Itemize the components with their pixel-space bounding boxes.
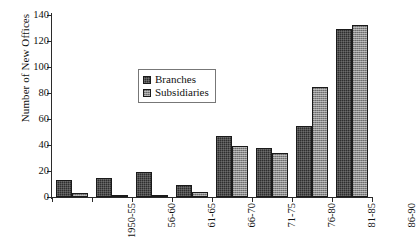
y-tick-label: 140 [33,8,49,21]
plot-area [52,15,372,197]
bar-subsidiaries-1950-55 [72,193,88,197]
bar-group [332,15,372,197]
bar-group [252,15,292,197]
x-tick-mark [132,197,133,202]
x-tick-label: 56-60 [166,203,178,250]
y-tick-label: 40 [39,138,50,151]
x-tick-label: 66-70 [246,203,258,250]
legend-item: Branches [143,73,209,86]
chart-legend: Branches Subsidiaries [138,69,216,103]
bar-branches-61-65 [136,172,152,197]
x-tick-mark [252,197,253,202]
x-tick-label: 81-85 [366,203,378,250]
legend-swatch-branches [143,76,151,84]
x-tick-label: 1950-55 [126,203,138,250]
bar-branches-66-70 [176,185,192,197]
legend-label-subsidiaries: Subsidiaries [155,86,209,99]
y-axis-title: Number of New Offices [19,0,31,138]
bar-subsidiaries-61-65 [152,195,168,197]
x-tick-label: 71-75 [286,203,298,250]
bar-group [292,15,332,197]
bar-branches-81-85 [296,126,312,198]
y-tick-label: 60 [39,112,50,125]
legend-item: Subsidiaries [143,86,209,99]
bar-group [92,15,132,197]
x-tick-mark [52,197,53,202]
legend-label-branches: Branches [155,73,196,86]
x-tick-label: 86-90 [406,203,418,250]
y-tick-label: 100 [33,60,49,73]
x-tick-mark [332,197,333,202]
y-tick-label: 120 [33,34,49,47]
bar-branches-56-60 [96,178,112,198]
bar-branches-86-90 [336,29,352,197]
bar-group [52,15,92,197]
bar-subsidiaries-76-80 [272,153,288,197]
y-tick-label: 0 [44,190,49,203]
bar-subsidiaries-81-85 [312,87,328,198]
bar-branches-76-80 [256,148,272,197]
y-tick-label: 80 [39,86,50,99]
x-tick-label: 76-80 [326,203,338,250]
bar-group [212,15,252,197]
legend-swatch-subsidiaries [143,89,151,97]
bar-subsidiaries-71-75 [232,146,248,197]
bar-group [172,15,212,197]
x-tick-mark [372,197,373,202]
x-tick-mark [172,197,173,202]
bar-branches-71-75 [216,136,232,197]
y-tick-label: 20 [39,164,50,177]
bar-subsidiaries-66-70 [192,192,208,197]
bar-subsidiaries-86-90 [352,25,368,197]
bar-branches-1950-55 [56,180,72,197]
x-tick-mark [92,197,93,202]
bar-group [132,15,172,197]
bar-subsidiaries-56-60 [112,195,128,197]
x-tick-mark [292,197,293,202]
x-tick-mark [212,197,213,202]
x-tick-label: 61-65 [206,203,218,250]
